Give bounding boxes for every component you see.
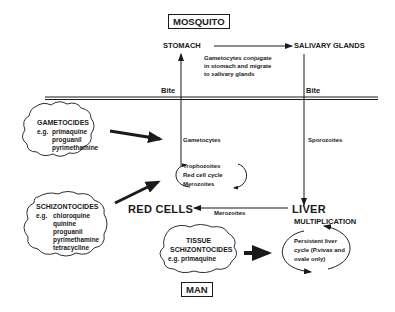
tissue-example: e.g. primaquine	[168, 255, 216, 263]
mosquito-note-line-1: Gametocytes conjugate	[204, 55, 272, 62]
mosquito-note-line-3: to salivary glands	[204, 71, 255, 78]
gametocytes-label: Gametocytes	[183, 137, 221, 144]
tissue-title-line-2: SCHIZONTOCIDES	[170, 246, 233, 255]
gametocides-drug: pyrimethamine	[52, 144, 98, 152]
gametocides-drug: proguanil	[52, 136, 82, 144]
bite-label-left: Bite	[161, 87, 175, 96]
bite-label-right: Bite	[306, 87, 320, 96]
red-cells-label: RED CELLS	[128, 203, 193, 216]
gametocides-drug: primaquine	[52, 128, 87, 136]
arrow-gametocides	[110, 131, 160, 139]
gametocides-title: GAMETOCIDES	[37, 119, 89, 128]
schizontocides-drug: pyrimethamine	[53, 236, 99, 244]
schizontocides-drug: tetracycline	[53, 244, 89, 252]
cycle-arc-right	[234, 164, 247, 188]
merozoites-label: Merozoites	[214, 210, 245, 217]
schizontocides-prefix: e.g.	[36, 212, 47, 220]
multiplication-label: MULTIPLICATION	[294, 218, 356, 227]
red-cell-cycle-label: Red cell cycle	[183, 172, 223, 179]
persistent-cycle-line-2: cycle (P.vivax and	[294, 247, 345, 254]
tissue-title-line-1: TISSUE	[186, 237, 211, 246]
liver-label: LIVER	[292, 203, 326, 216]
schizontocides-title: SCHIZONTOCIDES	[36, 203, 99, 212]
persistent-cycle-line-3: ovale only)	[294, 256, 325, 263]
merozoites-cycle-label: Merozoites	[183, 181, 214, 188]
man-header: MAN	[181, 282, 213, 297]
schizontocides-drug: proguanil	[53, 228, 83, 236]
schizontocides-drug: chloroquine	[53, 212, 90, 220]
mosquito-header: MOSQUITO	[168, 14, 230, 29]
persistent-cycle-line-1: Persistent liver	[294, 238, 337, 245]
gametocides-prefix: e.g.	[37, 128, 48, 136]
mosquito-note-line-2: in stomach and migrate	[204, 63, 271, 70]
salivary-glands-label: SALIVARY GLANDS	[294, 42, 365, 51]
sporozoites-label: Sporozoites	[308, 137, 342, 144]
arrow-schizontocides	[115, 182, 158, 203]
trophozoites-label: Trophozoites	[183, 163, 220, 170]
schizontocides-drug: quinine	[53, 220, 76, 228]
stomach-label: STOMACH	[163, 42, 201, 51]
